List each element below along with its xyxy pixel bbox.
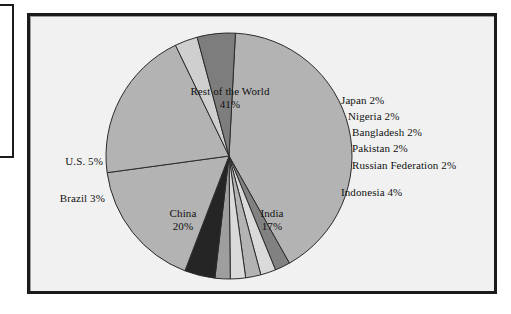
callout-label-japan: Japan 2% — [341, 94, 384, 107]
slice-label-percent: 41% — [190, 98, 269, 111]
slice-label-india: India17% — [260, 207, 283, 233]
callout-label-brazil: Brazil 3% — [60, 192, 105, 205]
slice-label-china: China20% — [170, 207, 197, 233]
callout-label-indonesia: Indonesia 4% — [341, 186, 402, 199]
callout-label-russian-federation: Russian Federation 2% — [352, 159, 456, 172]
pie-slice-group — [106, 33, 352, 279]
slice-label-rest-of-the-world: Rest of the World41% — [190, 85, 269, 111]
slice-label-percent: 17% — [260, 220, 283, 233]
callout-label-bangladesh: Bangladesh 2% — [352, 126, 422, 139]
callout-label-u-s-: U.S. 5% — [65, 155, 103, 168]
callout-label-nigeria: Nigeria 2% — [348, 110, 399, 123]
figure-root: Rest of the World41%Japan 2%Nigeria 2%Ba… — [0, 0, 511, 314]
callout-label-pakistan: Pakistan 2% — [352, 142, 408, 155]
slice-label-percent: 20% — [170, 220, 197, 233]
slice-label-name: China — [170, 207, 197, 219]
slice-label-name: India — [260, 207, 283, 219]
slice-label-name: Rest of the World — [190, 85, 269, 97]
